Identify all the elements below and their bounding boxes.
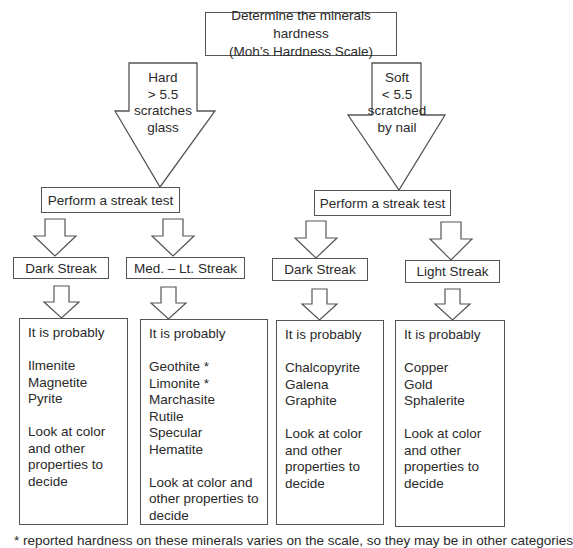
hard-streak-test-box: Perform a streak test <box>41 187 180 213</box>
mineral-name: Marchasite <box>149 392 259 409</box>
advice-text: decide <box>149 508 259 525</box>
down-arrow-icon <box>302 289 337 320</box>
soft-light-streak-box: Light Streak <box>405 260 500 283</box>
advice-text: properties to <box>404 459 496 476</box>
footnote: * reported hardness on these minerals va… <box>14 533 573 548</box>
soft-test-line2: by nail <box>362 120 432 137</box>
result-box-soft-light: It is probably Copper Gold Sphalerite Lo… <box>395 320 505 527</box>
advice-text: and other <box>285 443 375 460</box>
hard-dark-streak-box: Dark Streak <box>13 257 109 279</box>
advice-text: decide <box>28 474 119 491</box>
hard-arrow-label: Hard > 5.5 scratches glass <box>129 70 197 136</box>
hard-medlt-streak-box: Med. – Lt. Streak <box>126 257 245 279</box>
down-arrow-icon <box>435 289 470 320</box>
down-arrow-icon <box>151 287 186 319</box>
soft-threshold: < 5.5 <box>362 87 432 104</box>
down-arrow-icon <box>295 221 337 258</box>
mineral-name: Galena <box>285 377 375 394</box>
mineral-name: Rutile <box>149 409 259 426</box>
mineral-name: Gold <box>404 377 496 394</box>
mineral-name: Specular Hematite <box>149 425 259 458</box>
advice-text: Look at color <box>404 426 496 443</box>
soft-streak-test-box: Perform a streak test <box>314 190 451 216</box>
result-intro: It is probably <box>285 327 375 344</box>
result-box-soft-dark: It is probably Chalcopyrite Galena Graph… <box>276 320 384 525</box>
down-arrow-icon <box>44 286 79 318</box>
title-line-1: Determine the minerals hardness <box>206 7 396 43</box>
result-intro: It is probably <box>28 325 119 342</box>
hard-label: Hard <box>129 70 197 87</box>
title-line-2: (Moh’s Hardness Scale) <box>229 43 373 61</box>
advice-text: decide <box>285 476 375 493</box>
result-box-hard-dark: It is probably Ilmenite Magnetite Pyrite… <box>19 318 128 525</box>
result-intro: It is probably <box>149 326 259 343</box>
mineral-name: Geothite * <box>149 359 259 376</box>
advice-text: decide <box>404 476 496 493</box>
result-box-hard-medlt: It is probably Geothite * Limonite * Mar… <box>140 319 268 525</box>
mineral-name: Magnetite <box>28 375 119 392</box>
advice-text: and other <box>404 443 496 460</box>
advice-text: properties to <box>285 459 375 476</box>
soft-label: Soft <box>362 70 432 87</box>
mineral-name: Graphite <box>285 393 375 410</box>
hard-threshold: > 5.5 <box>129 87 197 104</box>
advice-text: Look at color <box>285 426 375 443</box>
advice-text: and other <box>28 441 119 458</box>
hard-test-line2: glass <box>129 120 197 137</box>
title-box: Determine the minerals hardness (Moh’s H… <box>205 12 397 56</box>
soft-test-line1: scratched <box>362 103 432 120</box>
result-intro: It is probably <box>404 327 496 344</box>
advice-text: Look at color <box>28 424 119 441</box>
advice-text: other properties to <box>149 491 259 508</box>
down-arrow-icon <box>152 219 194 256</box>
down-arrow-icon <box>430 222 472 260</box>
mineral-name: Sphalerite <box>404 393 496 410</box>
mineral-name: Copper <box>404 360 496 377</box>
advice-text: Look at color and <box>149 475 259 492</box>
mineral-name: Pyrite <box>28 391 119 408</box>
down-arrow-icon <box>34 219 76 256</box>
advice-text: properties to <box>28 457 119 474</box>
mineral-name: Limonite * <box>149 376 259 393</box>
soft-arrow-label: Soft < 5.5 scratched by nail <box>362 70 432 136</box>
hard-test-line1: scratches <box>129 103 197 120</box>
mineral-name: Ilmenite <box>28 358 119 375</box>
soft-dark-streak-box: Dark Streak <box>272 258 368 281</box>
mineral-name: Chalcopyrite <box>285 360 375 377</box>
